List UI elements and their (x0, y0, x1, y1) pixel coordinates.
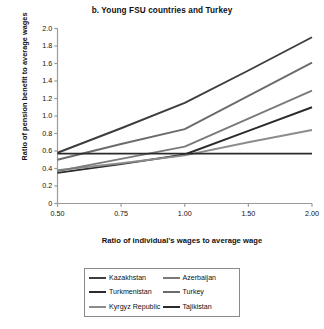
legend-entry: Azerbaijan (163, 274, 237, 282)
x-tick-label: 0.75 (101, 209, 141, 218)
chart-legend: KazakhstanAzerbaijanTurkmenistanTurkeyKy… (84, 268, 240, 317)
legend-color-swatch (89, 291, 106, 293)
chart-figure: b. Young FSU countries and Turkey Ratio … (0, 0, 324, 329)
x-axis-title: Ratio of individual's wages to average w… (40, 236, 324, 245)
series-lines (58, 37, 313, 173)
y-tick-label: 1.2 (26, 94, 52, 103)
y-tick-label: 0 (26, 199, 52, 208)
series-line (58, 63, 313, 160)
y-tick-label: 0.2 (26, 181, 52, 190)
legend-label: Turkey (183, 288, 204, 296)
series-line (58, 37, 313, 153)
legend-entry: Turkmenistan (89, 288, 163, 296)
legend-color-swatch (163, 306, 180, 308)
y-tick-label: 2.0 (26, 24, 52, 33)
x-tick-label: 1.00 (165, 209, 205, 218)
x-tick-label: 0.50 (38, 209, 78, 218)
tick-marks (54, 29, 312, 207)
legend-color-swatch (163, 291, 180, 293)
x-tick-label: 1.50 (228, 209, 268, 218)
y-tick-label: 0.6 (26, 146, 52, 155)
legend-color-swatch (163, 277, 180, 279)
legend-color-swatch (89, 277, 106, 279)
legend-entry: Kazakhstan (89, 274, 163, 282)
plot-area: 00.20.40.60.81.01.21.41.61.82.0 0.500.75… (0, 0, 324, 232)
legend-entry: Tajikistan (163, 303, 237, 311)
y-tick-label: 1.6 (26, 59, 52, 68)
legend-entry: Turkey (163, 288, 237, 296)
legend-label: Turkmenistan (109, 288, 152, 296)
axis-lines (58, 29, 313, 204)
y-tick-label: 1.8 (26, 41, 52, 50)
legend-entry: Kyrgyz Republic (89, 303, 163, 311)
legend-label: Tajikistan (183, 303, 212, 311)
legend-color-swatch (89, 306, 106, 308)
y-tick-label: 0.4 (26, 164, 52, 173)
x-tick-label: 2.00 (292, 209, 324, 218)
legend-label: Kazakhstan (109, 274, 146, 282)
legend-label: Azerbaijan (183, 274, 217, 282)
y-tick-label: 1.4 (26, 76, 52, 85)
legend-label: Kyrgyz Republic (109, 303, 160, 311)
y-tick-label: 1.0 (26, 111, 52, 120)
y-tick-label: 0.8 (26, 129, 52, 138)
